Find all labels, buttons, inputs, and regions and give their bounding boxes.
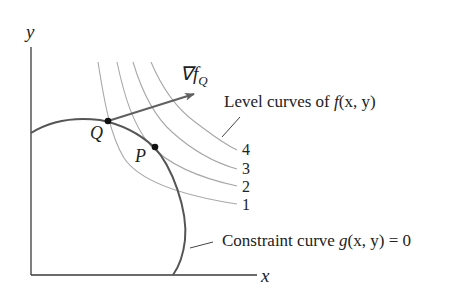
diagram-canvas: y x Q P ∇fQ Level curves of f(x, y) 4 3 … [0, 0, 470, 301]
point-q-label: Q [90, 124, 103, 142]
point-q [105, 118, 112, 125]
constraint-label: Constraint curve g(x, y) = 0 [222, 232, 411, 249]
gradient-label: ∇fQ [180, 64, 208, 87]
level-curve-1 [98, 62, 237, 204]
level-value-4: 4 [242, 142, 250, 158]
constraint-curve [31, 119, 185, 275]
level-curves-label-prefix: Level curves of [224, 92, 334, 111]
constraint-label-prefix: Constraint curve [222, 231, 339, 250]
level-curves-label: Level curves of f(x, y) [224, 93, 376, 110]
gradient-subscript: Q [198, 73, 207, 88]
diagram-svg [0, 0, 470, 301]
point-p-label: P [135, 147, 146, 165]
level-curve-2 [117, 62, 237, 186]
constraint-leader [190, 242, 213, 248]
level-curves-label-args: (x, y) [339, 92, 376, 111]
level-value-2: 2 [242, 179, 250, 195]
level-value-1: 1 [242, 197, 250, 213]
level-curves-leader [222, 117, 240, 137]
point-p [152, 144, 159, 151]
constraint-label-func: g [339, 231, 348, 250]
level-curves [98, 62, 237, 204]
gradient-symbol: ∇f [180, 63, 198, 84]
constraint-label-args: (x, y) = 0 [348, 231, 411, 250]
y-axis-label: y [26, 22, 34, 41]
x-axis-label: x [261, 266, 269, 285]
level-value-3: 3 [242, 161, 250, 177]
gradient-arrow [108, 94, 194, 121]
